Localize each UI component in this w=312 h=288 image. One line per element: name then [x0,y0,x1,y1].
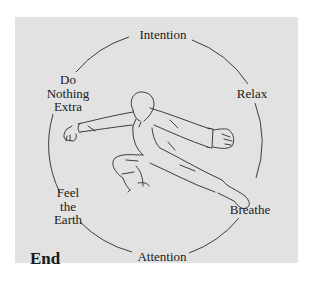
label-line: Earth [48,213,88,227]
label-breathe: Breathe [224,203,276,216]
label-attention: Attention [134,250,190,263]
end-label: End [30,250,60,267]
label-line: Do [40,73,96,87]
label-feel-the-earth: Feel the Earth [48,186,88,227]
label-do-nothing-extra: Do Nothing Extra [40,73,96,114]
label-line: Feel [48,186,88,200]
label-intention: Intention [134,28,192,41]
label-relax: Relax [234,87,270,100]
cycle-diagram [0,0,312,288]
label-line: the [48,200,88,214]
label-line: Nothing [40,87,96,101]
label-line: Extra [40,100,96,114]
